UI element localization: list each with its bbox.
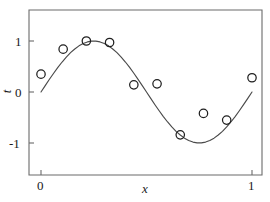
y-tick-label-1: 1: [15, 35, 22, 48]
x-tick-label-1: 1: [248, 179, 255, 192]
figure-container: 1 0 -1 0 1 x t: [0, 0, 270, 202]
y-axis-title: t: [0, 90, 13, 94]
x-tick-label-0: 0: [37, 179, 44, 192]
y-tick-label-0: 0: [15, 86, 22, 99]
x-axis-title: x: [142, 182, 148, 195]
plot-canvas: [0, 0, 270, 202]
y-tick-label-minus1: -1: [9, 137, 20, 150]
